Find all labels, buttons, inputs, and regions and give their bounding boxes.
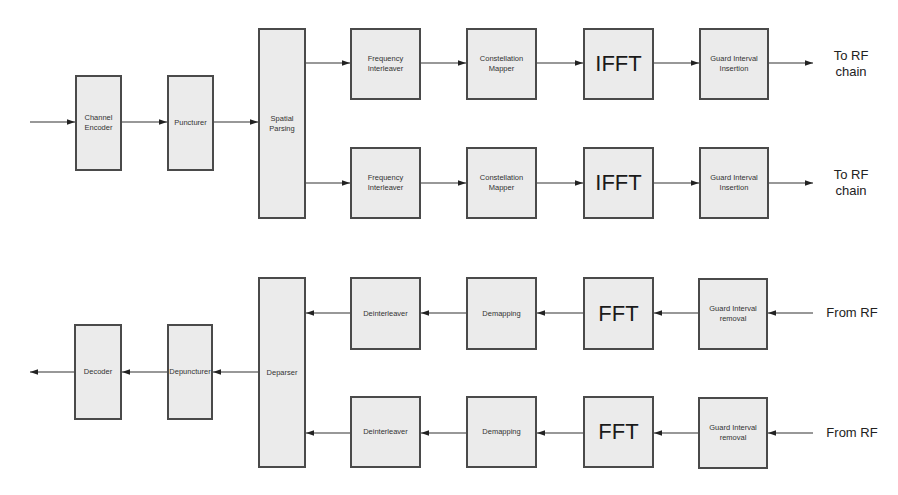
ofdm-mimo-block-diagram: Channel Encoder Puncturer Spatial Parsin… <box>0 0 898 495</box>
deinterleaver-block: Deinterleaver <box>350 396 421 468</box>
constellation-mapper-block: Constellation Mapper <box>466 28 537 100</box>
constellation-mapper-block: Constellation Mapper <box>466 147 537 219</box>
puncturer-block: Puncturer <box>167 75 214 171</box>
ifft-block: IFFT <box>583 147 654 219</box>
guard-interval-insertion-block: Guard Interval Insertion <box>699 28 769 100</box>
ifft-block: IFFT <box>583 28 654 100</box>
depuncturer-block: Depuncturer <box>167 324 213 420</box>
fft-block: FFT <box>583 396 654 468</box>
from-rf-label: From RF <box>820 305 884 321</box>
fft-block: FFT <box>583 277 654 350</box>
channel-encoder-block: Channel Encoder <box>75 75 122 171</box>
from-rf-label: From RF <box>820 425 884 441</box>
frequency-interleaver-block: Frequency Interleaver <box>350 28 421 100</box>
frequency-interleaver-block: Frequency Interleaver <box>350 147 421 219</box>
spatial-parsing-block: Spatial Parsing <box>258 28 306 219</box>
guard-interval-removal-block: Guard Interval removal <box>698 397 768 469</box>
guard-interval-removal-block: Guard Interval removal <box>698 278 768 350</box>
to-rf-chain-label: To RF chain <box>826 48 876 80</box>
deinterleaver-block: Deinterleaver <box>350 277 421 350</box>
deparser-block: Deparser <box>258 277 306 468</box>
to-rf-chain-label: To RF chain <box>826 167 876 199</box>
decoder-block: Decoder <box>74 324 122 420</box>
demapping-block: Demapping <box>466 277 537 350</box>
demapping-block: Demapping <box>466 396 537 468</box>
guard-interval-insertion-block: Guard Interval Insertion <box>699 147 769 219</box>
